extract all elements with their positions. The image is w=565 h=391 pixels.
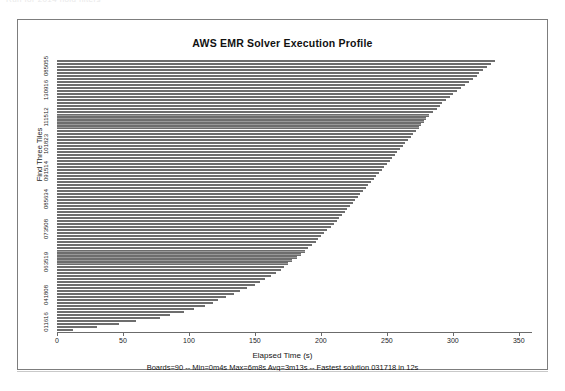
bar	[57, 299, 218, 301]
bar	[57, 259, 292, 261]
x-axis-tick-mark	[519, 332, 520, 336]
bar	[57, 69, 483, 71]
bar	[57, 196, 358, 198]
bar	[57, 226, 331, 228]
bar	[57, 202, 353, 204]
bar	[57, 314, 170, 316]
bar	[57, 247, 308, 249]
bar	[57, 281, 260, 283]
bar	[57, 105, 440, 107]
bar	[57, 329, 73, 331]
bar	[57, 284, 255, 286]
bar	[57, 142, 405, 144]
clipped-top-text-strip: Run for 2014 hold filters	[0, 0, 565, 14]
bar	[57, 208, 347, 210]
bar	[57, 178, 374, 180]
bar	[57, 139, 408, 141]
bar	[57, 117, 426, 119]
bar	[57, 199, 355, 201]
bar	[57, 169, 382, 171]
bar	[57, 145, 403, 147]
bar	[57, 87, 461, 89]
clipped-top-text: Run for 2014 hold filters	[6, 0, 101, 4]
x-axis-tick-label: 0	[37, 337, 77, 344]
bar	[57, 136, 411, 138]
bar	[57, 90, 457, 92]
x-axis-title: Elapsed Time (s)	[18, 351, 547, 360]
x-axis-tick-label: 150	[235, 337, 275, 344]
x-axis-tick-label: 100	[169, 337, 209, 344]
x-axis-tick-labels: 050100150200250300350	[57, 337, 532, 349]
bar	[57, 148, 400, 150]
chart-title: AWS EMR Solver Execution Profile	[18, 37, 547, 49]
x-axis-tick-mark	[189, 332, 190, 336]
bar	[57, 244, 312, 246]
bar	[57, 133, 413, 135]
bar	[57, 232, 324, 234]
bar	[57, 214, 342, 216]
bar	[57, 266, 284, 268]
bar	[57, 272, 276, 274]
bar	[57, 181, 371, 183]
bar	[57, 253, 301, 255]
bar	[57, 317, 160, 319]
bar	[57, 72, 479, 74]
bar	[57, 175, 376, 177]
y-axis-tick-label: 085055	[43, 43, 49, 89]
x-axis-tick-label: 350	[499, 337, 539, 344]
bar	[57, 235, 321, 237]
bar	[57, 66, 487, 68]
bar	[57, 99, 446, 101]
x-axis-tick-mark	[321, 332, 322, 336]
x-axis-tick-mark	[453, 332, 454, 336]
bar	[57, 187, 366, 189]
bar	[57, 163, 387, 165]
y-axis-tick-labels: 0116160418080635190735080856340915141018…	[37, 60, 55, 332]
bar	[57, 130, 416, 132]
bar	[57, 217, 339, 219]
x-axis-tick-mark	[387, 332, 388, 336]
bar	[57, 166, 384, 168]
bar	[57, 269, 281, 271]
bar	[57, 93, 453, 95]
bar	[57, 308, 194, 310]
x-axis-tick-mark	[255, 332, 256, 336]
bar	[57, 60, 495, 62]
bar	[57, 238, 318, 240]
plot-area	[57, 60, 532, 332]
bar	[57, 78, 473, 80]
bar	[57, 290, 240, 292]
bar	[57, 250, 305, 252]
bar	[57, 123, 421, 125]
bar	[57, 154, 395, 156]
bar	[57, 302, 213, 304]
bar	[57, 190, 363, 192]
bar	[57, 220, 337, 222]
bar	[57, 229, 327, 231]
bar	[57, 108, 437, 110]
bar	[57, 320, 136, 322]
bar	[57, 63, 491, 65]
x-axis-tick-label: 200	[301, 337, 341, 344]
x-axis-tick-label: 250	[367, 337, 407, 344]
x-axis-tick-mark	[123, 332, 124, 336]
bar	[57, 184, 368, 186]
bar	[57, 305, 205, 307]
bar	[57, 193, 360, 195]
bar	[57, 151, 397, 153]
bar	[57, 256, 297, 258]
bar	[57, 160, 390, 162]
bar	[57, 326, 97, 328]
bar	[57, 275, 271, 277]
bar	[57, 96, 450, 98]
bar	[57, 102, 442, 104]
bar	[57, 111, 433, 113]
bar	[57, 262, 288, 264]
bar	[57, 211, 345, 213]
x-axis-line	[57, 332, 532, 333]
bar	[57, 172, 379, 174]
chart-frame: AWS EMR Solver Execution Profile Find Th…	[17, 19, 548, 370]
bar	[57, 241, 316, 243]
bar	[57, 75, 477, 77]
bar	[57, 84, 465, 86]
